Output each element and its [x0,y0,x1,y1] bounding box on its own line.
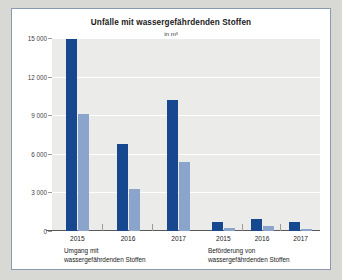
bar-group-2016 [243,38,282,231]
bar-group-2015 [204,38,243,231]
bar [179,162,190,231]
group-label-umgang: Umgang mit wassergefährdenden Stoffen [64,247,184,264]
chart-panel: Unfälle mit wassergefährdenden Stoffen i… [11,8,331,270]
x-axis-tick-label: 2015 [204,233,243,245]
bar [129,189,140,231]
bar [289,222,300,231]
bar-group-2016 [103,38,154,231]
bar [167,100,178,231]
bar-supergroup [52,38,204,231]
group-label-line2: wassergefährdenden Stoffen [64,256,184,265]
bar [301,229,312,231]
y-axis-tick-mark [48,231,52,232]
bar-supergroup [204,38,320,231]
group-label-line1: Beförderung von [208,247,332,256]
bar [78,114,89,231]
x-axis-tick-label: 2016 [243,233,282,245]
bar [117,144,128,231]
y-axis-tick-label: 15 000 [28,35,47,42]
bar-group-2015 [52,38,103,231]
bar-layer [52,38,320,231]
x-labels-group-umgang: 201520162017 [52,233,204,245]
group-label-befoerderung: Beförderung von wassergefährdenden Stoff… [208,247,332,264]
y-axis-tick-label: 12 000 [28,73,47,80]
x-axis-labels: 201520162017 201520162017 [52,233,320,245]
bar [224,228,235,231]
bar [66,39,77,231]
group-label-line1: Umgang mit [64,247,184,256]
bar-group-2017 [153,38,204,231]
y-axis-tick-label: 9 000 [31,112,47,119]
group-label-line2: wassergefährdenden Stoffen [208,256,332,265]
y-axis-tick-label: 3 000 [31,189,47,196]
y-axis-tick-label: 6 000 [31,150,47,157]
x-axis-tick-label: 2017 [281,233,320,245]
bar [251,219,262,231]
chart-subtitle: in m³ [12,30,330,37]
y-axis-tick-label: 0 [43,228,47,235]
plot-area: 15 00012 0009 0006 0003 0000 [52,38,320,231]
bar [212,222,223,231]
x-axis-tick-label: 2016 [103,233,154,245]
bar-group-2017 [281,38,320,231]
x-axis-tick-label: 2017 [153,233,204,245]
x-labels-group-befoerderung: 201520162017 [204,233,320,245]
bar [263,226,274,231]
chart-title: Unfälle mit wassergefährdenden Stoffen [12,18,330,27]
x-axis-tick-label: 2015 [52,233,103,245]
